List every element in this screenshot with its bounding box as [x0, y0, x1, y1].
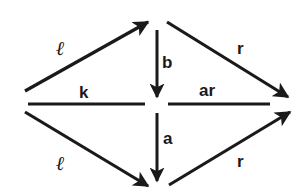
label-a: a	[163, 129, 173, 148]
label-lower-left: ℓ	[56, 151, 65, 175]
label-k: k	[79, 83, 89, 102]
label-lower-right: r	[237, 152, 244, 171]
label-ar: ar	[199, 81, 215, 100]
label-b: b	[162, 53, 172, 72]
arrow-lower-right	[169, 112, 290, 185]
arrow-upper-left	[25, 22, 148, 91]
label-upper-left: ℓ	[56, 36, 65, 60]
arrow-upper-right	[167, 22, 288, 97]
label-upper-right: r	[237, 39, 244, 58]
arrow-lower-left	[25, 112, 148, 186]
commutative-diagram: ℓ k b r ar a ℓ r	[0, 0, 305, 196]
